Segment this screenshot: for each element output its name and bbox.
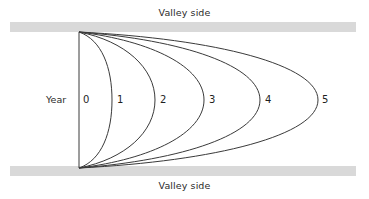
year-axis-label: Year (46, 95, 66, 105)
valley-side-label-top: Valley side (0, 8, 369, 18)
valley-side-label-bottom: Valley side (0, 181, 369, 191)
valley-side-band-bottom (10, 166, 356, 176)
year-label-1: 1 (117, 95, 123, 105)
year-label-0: 0 (83, 95, 89, 105)
valley-diagram: Valley side Valley side Year 0 1 2 3 4 5 (0, 0, 369, 199)
curve-year-3 (79, 32, 204, 168)
year-label-4: 4 (265, 95, 271, 105)
year-label-3: 3 (209, 95, 215, 105)
year-label-5: 5 (322, 95, 328, 105)
curve-year-4 (79, 32, 260, 168)
year-label-2: 2 (160, 95, 166, 105)
valley-side-band-top (10, 22, 356, 32)
